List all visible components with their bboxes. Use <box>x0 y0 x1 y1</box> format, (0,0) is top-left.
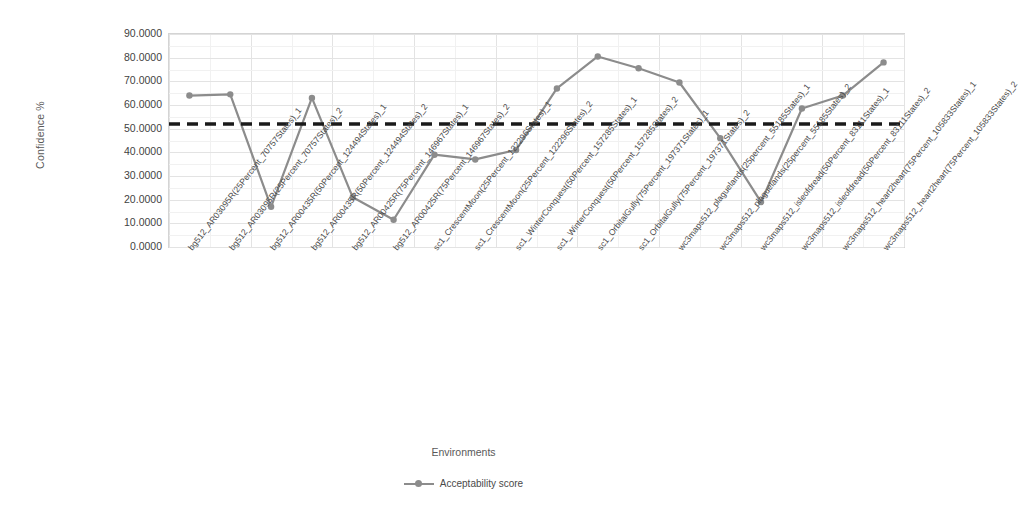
y-axis-tick-label: 10.0000 <box>104 217 162 227</box>
data-point-marker[interactable] <box>309 95 315 101</box>
data-point-marker[interactable] <box>676 79 682 85</box>
y-axis-tick-label: 70.0000 <box>104 75 162 85</box>
series-line-acceptability-score <box>189 56 883 219</box>
y-axis-tick-labels: 90.000080.000070.000060.000050.000040.00… <box>104 0 162 260</box>
y-axis-tick-label: 20.0000 <box>104 194 162 204</box>
legend-entry-label: Acceptability score <box>440 478 523 489</box>
data-point-marker[interactable] <box>799 105 805 111</box>
y-axis-tick-label: 60.0000 <box>104 99 162 109</box>
y-axis-title: Confidence % <box>28 60 52 210</box>
chart-legend: Acceptability score <box>0 478 927 489</box>
data-point-marker[interactable] <box>554 85 560 91</box>
data-point-marker[interactable] <box>635 65 641 71</box>
x-axis-title-text: Environments <box>431 446 495 458</box>
y-axis-tick-label: 40.0000 <box>104 146 162 156</box>
data-point-marker[interactable] <box>880 59 886 65</box>
y-axis-tick-label: 90.0000 <box>104 28 162 38</box>
legend-marker-icon <box>404 479 434 489</box>
y-axis-tick-label: 50.0000 <box>104 123 162 133</box>
y-axis-tick-label: 30.0000 <box>104 170 162 180</box>
data-point-marker[interactable] <box>390 217 396 223</box>
x-axis-tick-labels: bg512_AR03095R(25Percent_70757States)_1b… <box>0 246 927 436</box>
y-axis-title-text: Confidence % <box>34 101 46 169</box>
data-point-marker[interactable] <box>186 92 192 98</box>
data-point-marker[interactable] <box>227 91 233 97</box>
data-point-marker[interactable] <box>595 53 601 59</box>
y-axis-tick-label: 80.0000 <box>104 52 162 62</box>
x-axis-title: Environments <box>0 446 927 458</box>
